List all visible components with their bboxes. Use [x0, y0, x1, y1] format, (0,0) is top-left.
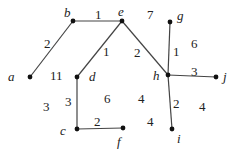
edge-weight-a-b: 2: [44, 37, 51, 50]
vertex-label-f: f: [117, 135, 121, 148]
edge-weight-e-d: 1: [103, 45, 110, 58]
face-label: 4: [147, 115, 154, 128]
face-label: 11: [50, 69, 63, 82]
edge-e-d: [77, 21, 122, 77]
vertex-e: [120, 19, 125, 24]
vertex-j: [214, 75, 219, 80]
vertex-label-i: i: [177, 132, 181, 145]
vertex-label-e: e: [118, 5, 124, 18]
graph-canvas: [0, 0, 237, 153]
vertex-h: [166, 73, 171, 78]
vertex-label-j: j: [223, 70, 227, 83]
vertex-label-a: a: [8, 70, 15, 83]
vertex-a: [28, 75, 33, 80]
edge-weight-e-h: 2: [134, 46, 141, 59]
edge-e-h: [122, 21, 168, 75]
vertex-label-c: c: [60, 124, 66, 137]
vertex-label-h: h: [153, 69, 160, 82]
vertex-label-b: b: [64, 6, 71, 19]
vertex-g: [168, 20, 173, 25]
edge-weight-g-h: 1: [173, 45, 180, 58]
vertex-f: [121, 126, 126, 131]
face-label: 6: [191, 37, 198, 50]
vertex-label-g: g: [177, 9, 184, 22]
vertex-d: [75, 75, 80, 80]
face-label: 4: [138, 92, 145, 105]
face-label: 3: [43, 100, 50, 113]
edge-weight-c-f: 2: [94, 115, 101, 128]
vertex-c: [75, 127, 80, 132]
edge-weight-b-e: 1: [95, 8, 102, 21]
edge-weight-h-j: 3: [191, 65, 198, 78]
vertex-i: [170, 127, 175, 132]
vertex-label-d: d: [89, 70, 96, 83]
face-label: 4: [199, 100, 206, 113]
face-label: 7: [147, 8, 154, 21]
edge-h-i: [168, 75, 172, 129]
edge-weight-h-i: 2: [173, 97, 180, 110]
edge-weight-d-c: 3: [65, 95, 72, 108]
vertex-b: [71, 19, 76, 24]
face-label: 6: [104, 92, 111, 105]
edge-g-h: [168, 22, 170, 75]
